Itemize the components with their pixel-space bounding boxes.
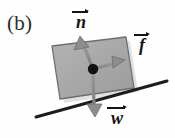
weight-force-label: w	[104, 104, 130, 127]
center-of-mass-dot	[88, 64, 98, 74]
normal-force-label: n	[70, 8, 92, 31]
vector-arrow-accent-w	[104, 104, 130, 110]
normal-force-symbol: n	[70, 13, 92, 31]
physics-free-body-diagram: (b) n f w	[0, 0, 175, 138]
friction-force-label: f	[132, 31, 152, 54]
panel-label: (b)	[7, 11, 32, 36]
friction-force-symbol: f	[132, 36, 152, 54]
vector-arrow-accent-f	[132, 31, 152, 37]
vector-arrow-accent-n	[70, 8, 92, 14]
weight-force-symbol: w	[104, 109, 130, 127]
